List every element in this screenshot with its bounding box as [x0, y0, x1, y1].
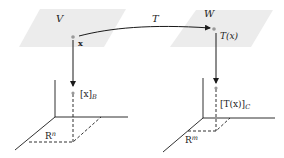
point-tx [212, 27, 216, 31]
label-coord-x: [x]B [80, 89, 97, 101]
diagram-canvas: V x T W T(x) [x]B Rn [T(x)]C Rm [0, 0, 284, 158]
point-x [71, 35, 75, 39]
label-w: W [204, 8, 215, 19]
label-x: x [78, 38, 83, 48]
point-coord-tx [214, 86, 217, 89]
label-tx: T(x) [220, 31, 239, 41]
dashed-projection-rn [29, 94, 101, 142]
axes-rn [15, 80, 128, 150]
axes-rm [163, 78, 275, 152]
label-t: T [152, 13, 160, 24]
label-rn: Rn [45, 130, 56, 141]
dashed-projection-rm [188, 89, 230, 131]
point-coord-x [71, 91, 74, 94]
label-coord-tx: [T(x)]C [220, 99, 250, 111]
label-rm: Rm [185, 134, 198, 145]
plane-w [170, 10, 273, 47]
